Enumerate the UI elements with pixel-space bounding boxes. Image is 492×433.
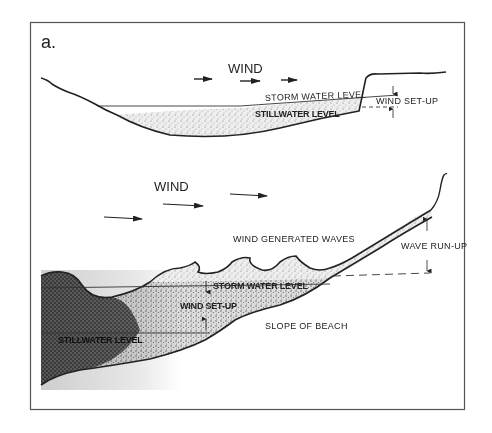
top-wind-setup-label: WIND SET-UP [376, 96, 438, 106]
bottom-panel: WIND WIND GENERATED WAVES WAVE RUN-UP ST… [41, 174, 467, 390]
top-wind-label: WIND [228, 61, 263, 76]
wind-generated-waves [150, 210, 432, 282]
top-stillwater-level-label: STILLWATER LEVEL [255, 109, 340, 119]
bottom-wind-label: WIND [154, 179, 189, 194]
wind-arrow-icon [163, 204, 203, 206]
coastal-water-level-diagram: a. WIND STORM WATER LEVEL STILLWATER LEV… [0, 0, 492, 433]
wind-generated-waves-label: WIND GENERATED WAVES [233, 234, 355, 244]
panel-label: a. [41, 32, 56, 52]
bottom-stillwater-level-label: STILLWATER LEVEL [58, 335, 143, 345]
wind-arrow-icon [230, 194, 267, 196]
top-panel: WIND STORM WATER LEVEL STILLWATER LEVEL … [41, 61, 446, 136]
wind-arrow-icon [104, 217, 142, 219]
wave-runup-label: WAVE RUN-UP [401, 241, 467, 251]
bottom-storm-dashed [333, 273, 430, 276]
shore-cliff [431, 174, 447, 210]
slope-of-beach-label: SLOPE OF BEACH [265, 321, 348, 331]
bottom-storm-water-level-label: STORM WATER LEVEL [213, 281, 308, 291]
bottom-wind-setup-label: WIND SET-UP [180, 301, 237, 311]
